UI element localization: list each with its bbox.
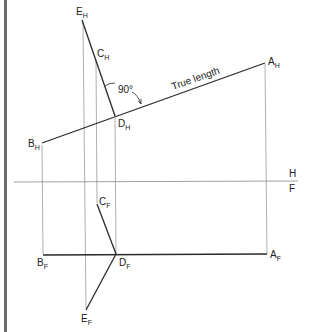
projector-a [265, 64, 267, 254]
label-e-h: EH [76, 6, 88, 19]
line-de-frontal [86, 254, 116, 310]
reference-label-f: F [289, 183, 295, 194]
horizontal-view [42, 20, 265, 143]
left-border [4, 0, 7, 332]
label-b-h: BH [28, 138, 40, 151]
line-ab-horizontal [42, 63, 265, 143]
orthographic-projection-diagram: H F 90° True length EH CH DH BH AH CF DF… [0, 0, 312, 332]
angle-label: 90° [118, 84, 133, 95]
label-c-h: CH [97, 48, 109, 61]
projection-lines [42, 22, 267, 308]
line-cd-frontal [97, 204, 116, 254]
reference-label-h: H [289, 168, 296, 179]
label-d-h: DH [118, 118, 130, 131]
label-a-h: AH [268, 56, 280, 69]
projector-e [83, 22, 86, 308]
label-e-f: EF [81, 313, 92, 326]
label-a-f: AF [270, 249, 281, 262]
frontal-view [43, 204, 267, 310]
point-labels-horizontal: EH CH DH BH AH [28, 6, 280, 151]
reference-line-hf [14, 181, 298, 182]
label-c-f: CF [99, 196, 111, 209]
label-b-f: BF [37, 257, 48, 270]
projector-d [115, 118, 116, 254]
line-ab-frontal [43, 254, 267, 255]
line-ed-horizontal [82, 20, 115, 116]
label-d-f: DF [119, 257, 131, 270]
projector-b [42, 145, 43, 254]
point-labels-frontal: CF DF BF AF EF [37, 196, 281, 326]
